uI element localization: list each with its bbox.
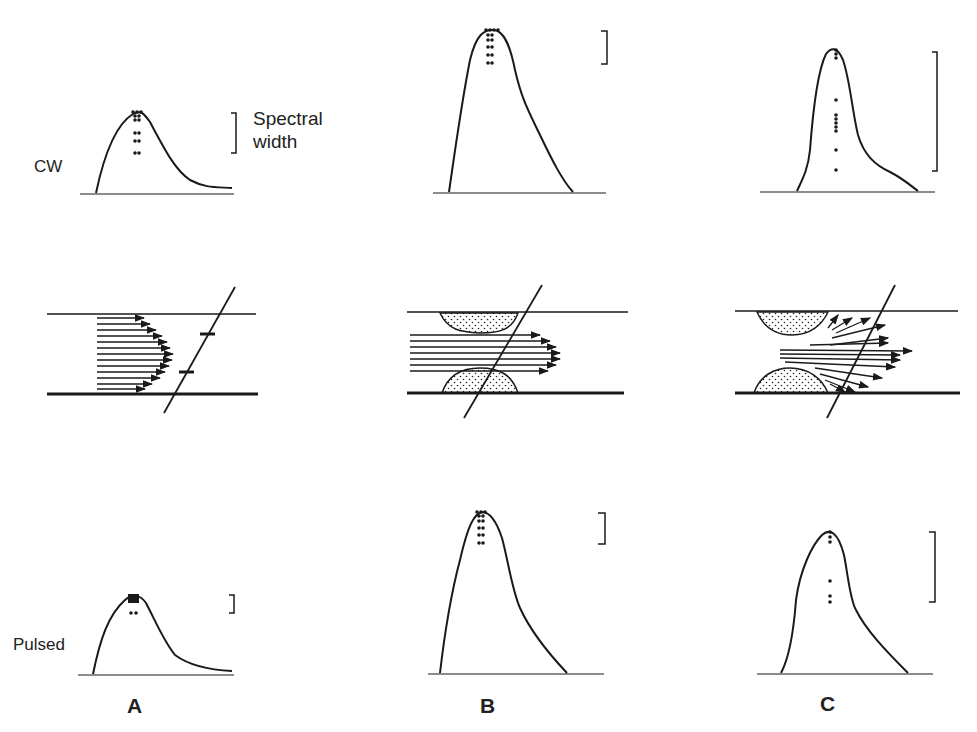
spectrum-dots (131, 110, 143, 155)
vessel-b-stenosis-flow (407, 285, 628, 418)
plaque-top (440, 313, 518, 333)
velocity-vectors (97, 318, 173, 389)
spectrum-dots (484, 28, 500, 65)
ultrasound-beam (464, 285, 542, 418)
spectrum-dots (128, 594, 139, 615)
spectrum-dots (834, 48, 838, 172)
vessel-c-turbulent-flow (735, 285, 960, 418)
velocity-vectors (410, 335, 560, 371)
spectrum-b-pulsed (428, 510, 605, 674)
spectral-width-bracket (229, 595, 234, 613)
spectrum-a-pulsed (78, 594, 234, 675)
spectral-width-bracket (932, 52, 937, 171)
vessel-a-laminar-flow (47, 287, 258, 413)
plaque-top (757, 312, 828, 335)
spectral-width-bracket (231, 113, 236, 153)
ultrasound-beam (827, 285, 895, 418)
spectrum-c-pulsed (757, 530, 935, 674)
spectral-width-label-line2: width (253, 130, 297, 153)
diagram-canvas (0, 0, 977, 732)
row-label-cw: CW (34, 157, 62, 177)
spectrum-b-cw (433, 28, 607, 193)
plaque-bottom (754, 368, 828, 393)
column-label-a: A (127, 694, 142, 718)
column-label-b: B (480, 694, 495, 718)
spectral-width-bracket (929, 532, 935, 602)
row-label-pulsed: Pulsed (13, 635, 65, 655)
spectrum-dots (828, 530, 832, 604)
column-label-c: C (820, 692, 835, 716)
spectral-width-label-line1: Spectral (253, 107, 323, 130)
spectrum-a-cw (80, 110, 236, 194)
spectrum-c-cw (760, 48, 937, 192)
spectral-width-bracket (598, 513, 605, 544)
spectral-width-bracket (601, 31, 607, 64)
